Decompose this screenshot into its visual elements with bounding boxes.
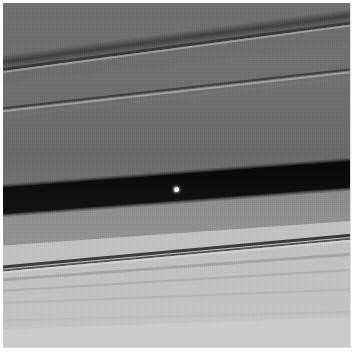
page-margin-left [0,0,3,361]
page-margin-top [0,0,352,3]
ringlet-lower-faint-4 [3,307,351,325]
image-caption: Saturn's A ring with the Keeler Gap [0,349,352,361]
daphnis-moon [174,187,179,192]
ring-photograph [3,3,351,348]
image-canvas: Saturn's A ring with the Keeler Gap [0,0,352,361]
ringlet-mid-faint-band [3,58,351,135]
